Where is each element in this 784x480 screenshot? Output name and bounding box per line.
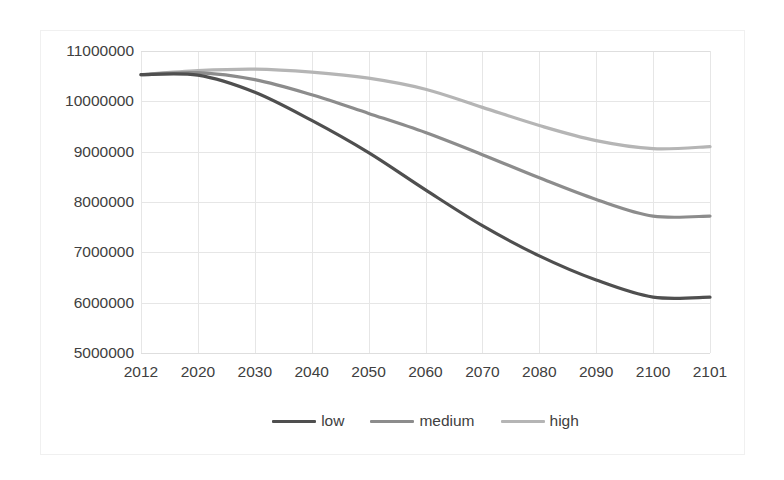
x-axis-tick-label: 2100 — [623, 364, 683, 380]
legend-label-low: low — [321, 413, 344, 429]
legend-entry-low[interactable]: low — [272, 413, 344, 429]
y-axis-tick-label: 7000000 — [38, 244, 134, 260]
x-axis-tick-label: 2020 — [168, 364, 228, 380]
legend-label-high: high — [550, 413, 579, 429]
chart-root: 1100000010000000900000080000007000000600… — [0, 0, 784, 480]
y-axis-tick-label: 9000000 — [38, 144, 134, 160]
legend-entry-high[interactable]: high — [501, 413, 579, 429]
gridline-horizontal — [141, 353, 710, 354]
legend-swatch-high — [501, 420, 545, 423]
x-axis-tick-label: 2050 — [339, 364, 399, 380]
gridline-vertical — [710, 51, 711, 353]
x-axis-tick-label: 2060 — [396, 364, 456, 380]
legend-entry-medium[interactable]: medium — [370, 413, 474, 429]
plot-area — [141, 51, 710, 353]
x-axis-tick-label: 2030 — [225, 364, 285, 380]
x-axis-tick-label: 2080 — [509, 364, 569, 380]
y-axis-tick-label: 6000000 — [38, 295, 134, 311]
x-axis-tick-label: 2012 — [111, 364, 171, 380]
series-line-low — [141, 74, 710, 299]
x-axis-tick-label: 2070 — [452, 364, 512, 380]
legend-label-medium: medium — [419, 413, 474, 429]
x-axis-tick-label: 2040 — [282, 364, 342, 380]
y-axis-tick-label: 5000000 — [38, 345, 134, 361]
series-lines — [141, 51, 710, 353]
y-axis-tick-label: 8000000 — [38, 194, 134, 210]
legend-swatch-medium — [370, 420, 414, 423]
y-axis-tick-label: 10000000 — [38, 93, 134, 109]
x-axis-tick-label: 2090 — [566, 364, 626, 380]
y-axis-tick-labels: 1100000010000000900000080000007000000600… — [34, 51, 134, 353]
legend-swatch-low — [272, 420, 316, 423]
x-axis-tick-label: 2101 — [680, 364, 740, 380]
x-axis-tick-labels: 2012202020302040205020602070208020902100… — [141, 364, 710, 388]
chart-legend: lowmediumhigh — [141, 408, 710, 434]
y-axis-tick-label: 11000000 — [38, 43, 134, 59]
